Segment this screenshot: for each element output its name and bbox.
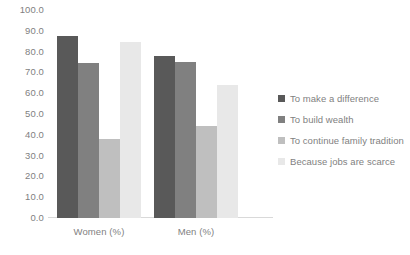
y-tick-label: 10.0 xyxy=(25,192,44,202)
legend-label: To continue family tradition xyxy=(290,135,404,146)
y-tick-label: 50.0 xyxy=(25,109,44,119)
x-tick-label-women: Women (%) xyxy=(74,226,125,237)
bar-women-to-build-wealth xyxy=(78,63,99,218)
bar-men-because-jobs-are-scarce xyxy=(217,85,238,218)
x-tick-label-men: Men (%) xyxy=(178,226,215,237)
legend: To make a difference To build wealth To … xyxy=(278,88,410,172)
y-tick-label: 30.0 xyxy=(25,151,44,161)
bar-men-to-make-a-difference xyxy=(154,56,175,218)
bar-group-men xyxy=(154,10,238,218)
bar-men-to-build-wealth xyxy=(175,62,196,218)
y-axis: 100.0 90.0 80.0 70.0 60.0 50.0 40.0 30.0… xyxy=(0,0,48,228)
legend-swatch-icon xyxy=(278,95,285,102)
y-tick-label: 70.0 xyxy=(25,67,44,77)
x-axis: Women (%) Men (%) xyxy=(48,222,273,246)
legend-item-to-build-wealth: To build wealth xyxy=(278,109,410,130)
y-tick-label: 100.0 xyxy=(20,5,44,15)
y-tick-label: 0.0 xyxy=(30,213,44,223)
legend-swatch-icon xyxy=(278,116,285,123)
plot-area xyxy=(48,10,273,218)
y-tick-label: 90.0 xyxy=(25,26,44,36)
legend-item-because-jobs-are-scarce: Because jobs are scarce xyxy=(278,151,410,172)
legend-swatch-icon xyxy=(278,158,285,165)
bar-chart: 100.0 90.0 80.0 70.0 60.0 50.0 40.0 30.0… xyxy=(0,0,410,255)
legend-label: Because jobs are scarce xyxy=(290,156,395,167)
y-tick-label: 40.0 xyxy=(25,130,44,140)
legend-label: To build wealth xyxy=(290,114,354,125)
bar-women-to-make-a-difference xyxy=(57,36,78,218)
legend-label: To make a difference xyxy=(290,93,379,104)
legend-swatch-icon xyxy=(278,137,285,144)
legend-item-to-continue-family-tradition: To continue family tradition xyxy=(278,130,410,151)
y-tick-label: 60.0 xyxy=(25,88,44,98)
y-tick-label: 20.0 xyxy=(25,171,44,181)
legend-item-to-make-a-difference: To make a difference xyxy=(278,88,410,109)
bar-women-to-continue-family-tradition xyxy=(99,139,120,218)
y-tick-label: 80.0 xyxy=(25,47,44,57)
bar-women-because-jobs-are-scarce xyxy=(120,42,141,218)
bar-men-to-continue-family-tradition xyxy=(196,126,217,218)
bar-group-women xyxy=(57,10,141,218)
